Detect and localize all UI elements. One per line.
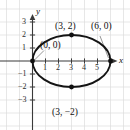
- y-tick-label-3: 3: [22, 18, 26, 26]
- y-tick-label-1: 1: [22, 44, 26, 52]
- x-tick-label-2: 2: [56, 64, 60, 72]
- y-tick-label-neg2: −2: [18, 83, 27, 91]
- point-label-right: (6, 0): [91, 22, 112, 32]
- ellipse-graph-figure: y x 1 2 3 4 5 3 2 1 −1 −2 −3 (0, 0) (3, …: [0, 0, 130, 130]
- x-tick-label-5: 5: [95, 64, 99, 72]
- x-tick-label-4: 4: [82, 64, 86, 72]
- x-tick-label-3: 3: [69, 64, 73, 72]
- x-tick-label-1: 1: [43, 64, 47, 72]
- y-axis-label: y: [36, 7, 40, 16]
- y-tick-label-neg1: −1: [18, 70, 27, 78]
- y-tick-label-2: 2: [22, 31, 26, 39]
- y-axis: [30, 14, 36, 130]
- point-label-origin: (0, 0): [40, 41, 61, 51]
- point-label-top: (3, 2): [55, 22, 76, 32]
- point-top: [69, 33, 74, 38]
- x-axis-label: x: [119, 56, 123, 65]
- origin-leader-line: [35, 51, 45, 61]
- point-right: [108, 59, 113, 64]
- y-tick-label-neg3: −3: [18, 96, 27, 104]
- point-bottom: [69, 85, 74, 90]
- point-label-bottom: (3, −2): [52, 108, 78, 118]
- point-origin: [30, 59, 35, 64]
